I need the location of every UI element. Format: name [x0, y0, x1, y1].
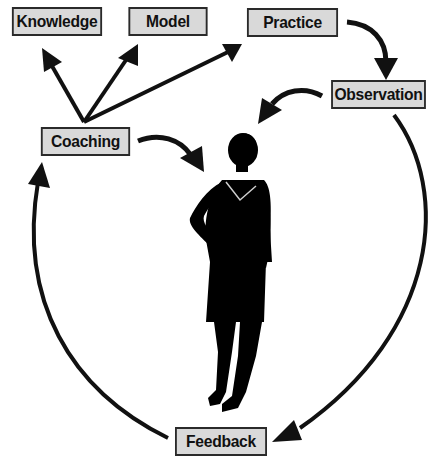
- node-observation: Observation: [331, 80, 426, 109]
- node-knowledge: Knowledge: [12, 7, 102, 36]
- arrow-coaching-to-person: [138, 137, 204, 172]
- arrow-observation-to-feedback: [272, 115, 426, 442]
- arrow-practice-to-observation: [347, 22, 398, 80]
- node-practice: Practice: [247, 8, 338, 37]
- arrow-coaching-to-practice: [84, 44, 242, 122]
- arrow-observation-to-person: [258, 90, 322, 124]
- node-coaching: Coaching: [41, 127, 130, 156]
- arrow-feedback-to-coaching: [28, 162, 168, 438]
- node-feedback: Feedback: [175, 427, 267, 456]
- node-model: Model: [128, 7, 207, 36]
- diagram-canvas: [0, 0, 442, 458]
- woman-silhouette-icon: [190, 133, 272, 412]
- arrow-coaching-to-knowledge: [42, 48, 84, 122]
